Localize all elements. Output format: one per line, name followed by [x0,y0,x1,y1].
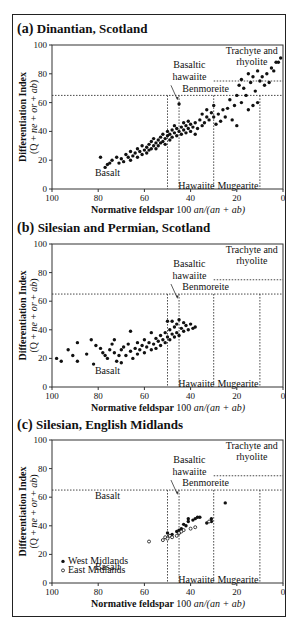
data-point [163,143,166,146]
data-point [191,125,194,128]
region-label-basaltic-hawaiite: Basaltic [173,454,206,465]
data-point [138,150,141,153]
region-label-mugearite: Mugearite [217,378,259,389]
y-tick-label: 60 [38,492,48,502]
data-point [154,147,157,150]
region-label-basalt: Basalt [95,365,120,376]
data-point [175,134,178,137]
data-point [120,361,123,364]
data-point [113,351,116,354]
data-point [182,128,185,131]
data-point [152,137,155,140]
data-point [184,524,187,527]
data-point [203,121,206,124]
data-point [157,138,160,141]
data-point [138,348,141,351]
y-axis-label: Differentiation Index [17,72,28,162]
data-point [267,81,270,84]
region-label-trachyte-2: rhyolite [236,451,268,462]
data-point [279,56,282,59]
data-point [200,124,203,127]
data-point [148,540,151,543]
x-tick-label: 60 [140,391,150,401]
data-point [92,362,95,365]
data-point [212,104,215,107]
data-point [180,327,183,330]
y-tick-label: 20 [38,353,48,363]
data-point [166,537,169,540]
data-point [150,348,153,351]
data-point [247,72,250,75]
data-point [182,529,185,532]
data-point [256,101,259,104]
y-tick-label: 20 [38,549,48,559]
y-tick-label: 60 [38,296,48,306]
data-point [154,141,157,144]
data-point [145,146,148,149]
data-point [251,75,254,78]
region-label-mugearite: Mugearite [217,574,259,585]
data-point [147,143,150,146]
figure-svg: (a) Dinantian, Scotland02040608010010080… [0,0,298,628]
data-point [150,331,153,334]
data-point [175,331,178,334]
y-tick-label: 40 [38,325,48,335]
panel-title: (a) Dinantian, Scotland [17,21,148,37]
data-point [184,131,187,134]
data-point [189,322,192,325]
data-point [108,161,111,164]
y-tick-label: 100 [34,40,48,50]
region-label-basaltic-hawaiite-2: hawaiite [173,270,207,281]
data-point [184,324,187,327]
x-tick-label: 0 [281,587,286,597]
data-point [129,159,132,162]
data-point [103,354,106,357]
region-label-hawaiite: Hawaiite [178,378,215,389]
data-point [161,133,164,136]
data-point [143,148,146,151]
data-point [240,101,243,104]
region-label-basaltic-hawaiite-2: hawaiite [173,466,207,477]
region-label-trachyte-2: rhyolite [236,255,268,266]
data-point [272,69,275,72]
data-point [110,342,113,345]
data-point [110,159,113,162]
y-tick-label: 20 [38,155,48,165]
data-point [175,127,178,130]
data-point [254,89,257,92]
data-point [103,166,106,169]
region-label-benmoreite: Benmoreite [182,83,229,94]
data-point [210,111,213,114]
data-point [66,348,69,351]
y-axis-sublabel: (Q + ne + or + ab) [28,80,40,154]
region-label-benmoreite: Benmoreite [182,281,229,292]
data-point [170,135,173,138]
data-point [184,124,187,127]
region-label-mugearite: Mugearite [217,180,259,191]
data-point [168,138,171,141]
data-point [180,125,183,128]
data-point [166,531,169,534]
data-point [120,157,123,160]
panel-title: (b) Silesian and Permian, Scotland [17,220,211,236]
panel-b: (b) Silesian and Permian, Scotland020406… [17,220,286,414]
data-point [210,517,213,520]
data-point [140,344,143,347]
series-west-midlands [166,501,227,537]
data-point [230,118,233,121]
data-point [207,118,210,121]
data-point [173,325,176,328]
data-point [244,94,247,97]
region-label-basalt-upper: Basalt [95,490,120,501]
data-point [194,526,197,529]
data-point [182,330,185,333]
data-point [224,501,227,504]
data-point [85,352,88,355]
data-point [166,335,169,338]
data-point [168,328,171,331]
data-point [136,156,139,159]
data-point [163,137,166,140]
data-point [242,87,245,90]
data-point [129,150,132,153]
data-point [182,321,185,324]
